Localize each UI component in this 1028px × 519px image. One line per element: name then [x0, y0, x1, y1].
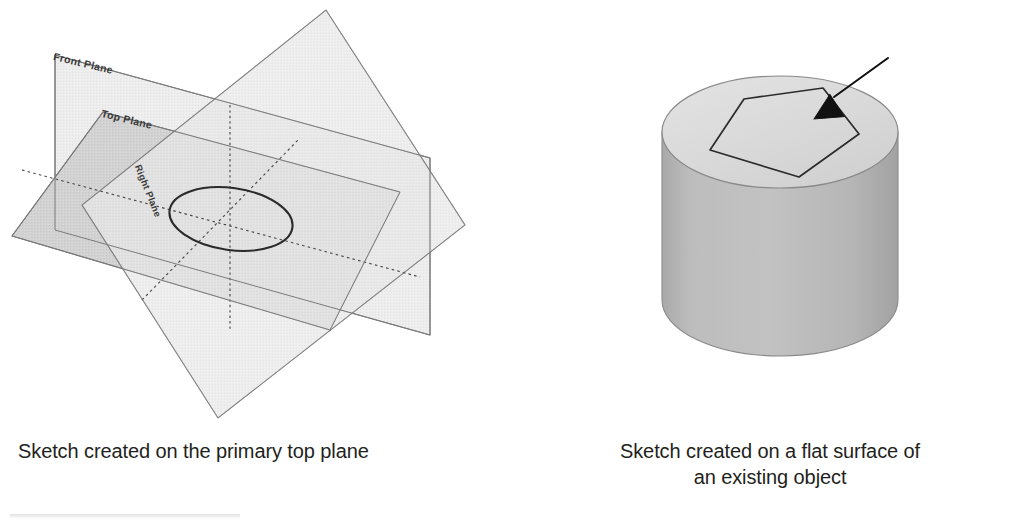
- cylinder-diagram: [514, 0, 1028, 430]
- caption-right-line-2: an existing object: [560, 464, 980, 490]
- figure-stage: Front Plane Top Plane Right Plane: [0, 0, 1028, 519]
- caption-left-line-1: Sketch created on the primary top plane: [18, 438, 474, 464]
- caption-left-figure: Sketch created on the primary top plane: [4, 438, 474, 464]
- caption-right-line-1: Sketch created on a flat surface of: [560, 438, 980, 464]
- page-edge-artifact: [10, 514, 240, 519]
- right-plane-shape: [82, 8, 465, 430]
- caption-right-figure: Sketch created on a flat surface of an e…: [560, 438, 980, 490]
